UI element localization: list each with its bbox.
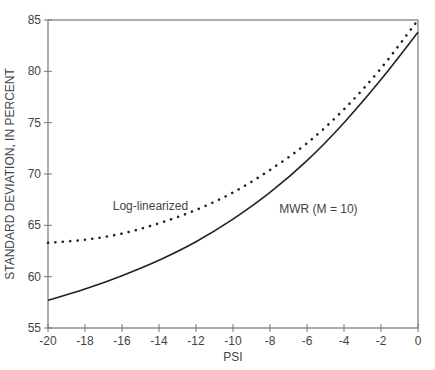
x-tick-label: -2 [376,334,387,348]
x-tick-label: -16 [113,334,131,348]
y-axis-title: STANDARD DEVIATION, IN PERCENT [3,68,17,280]
y-tick-label: 75 [28,116,42,130]
series-log-linearized [48,20,418,243]
annotation-mwr: MWR (M = 10) [279,202,357,216]
x-tick-label: 0 [415,334,422,348]
series-mwr [48,32,418,300]
x-tick-label: -10 [224,334,242,348]
labels: Log-linearizedMWR (M = 10)PSISTANDARD DE… [3,68,358,364]
x-axis-title: PSI [223,350,242,364]
annotation-log-linearized: Log-linearized [113,199,188,213]
series [48,20,418,300]
line-chart: -20-18-16-14-12-10-8-6-4-205560657075808… [0,0,435,370]
y-tick-label: 85 [28,13,42,27]
ticks: -20-18-16-14-12-10-8-6-4-205560657075808… [28,13,422,348]
x-tick-label: -6 [302,334,313,348]
y-tick-label: 70 [28,167,42,181]
y-tick-label: 80 [28,64,42,78]
x-tick-label: -14 [150,334,168,348]
x-tick-label: -4 [339,334,350,348]
y-tick-label: 65 [28,218,42,232]
x-tick-label: -18 [76,334,94,348]
x-tick-label: -12 [187,334,205,348]
y-tick-label: 60 [28,270,42,284]
x-tick-label: -8 [265,334,276,348]
x-tick-label: -20 [39,334,57,348]
y-tick-label: 55 [28,321,42,335]
